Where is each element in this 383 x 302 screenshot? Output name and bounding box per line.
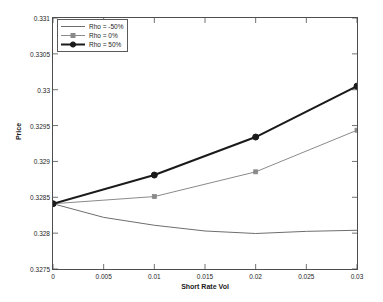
y-axis-tick-label: 0.3305 (30, 50, 50, 57)
y-axis-title: Price (15, 102, 22, 162)
legend-sample-line-icon (60, 31, 86, 40)
y-axis-tick-label: 0.331 (34, 15, 50, 22)
y-axis-tick-label: 0.3285 (30, 194, 50, 201)
chart-figure: 0.32750.3280.32850.3290.32950.330.33050.… (0, 0, 383, 302)
x-axis-tick-label: 0.01 (148, 273, 161, 280)
y-axis-tick-labels: 0.32750.3280.32850.3290.32950.330.33050.… (0, 0, 50, 302)
series-canvas (53, 18, 357, 269)
legend-sample-line-icon (60, 40, 86, 49)
x-axis-title: Short Rate Vol (52, 283, 358, 290)
x-axis-tick-label: 0.03 (351, 273, 364, 280)
x-axis-tick-label: 0.005 (96, 273, 112, 280)
x-axis-tick-label: 0.025 (298, 273, 314, 280)
x-axis-tick-label: 0 (51, 273, 55, 280)
y-axis-tick-label: 0.328 (34, 230, 50, 237)
y-axis-tick-label: 0.33 (37, 86, 50, 93)
legend-item-label: Rho = 0% (89, 31, 118, 40)
x-axis-tick-label: 0.015 (197, 273, 213, 280)
x-axis-tick-label: 0.02 (249, 273, 262, 280)
legend-item-label: Rho = -50% (89, 22, 124, 31)
legend-item[interactable]: Rho = -50% (60, 22, 124, 31)
legend-item-label: Rho = 50% (89, 40, 121, 49)
legend-item[interactable]: Rho = 50% (60, 40, 124, 49)
plot-area (52, 17, 358, 270)
legend-item[interactable]: Rho = 0% (60, 31, 124, 40)
y-axis-tick-label: 0.3295 (30, 122, 50, 129)
legend: Rho = -50% Rho = 0% Rho = 50% (57, 19, 128, 52)
y-axis-tick-label: 0.3275 (30, 266, 50, 273)
legend-sample-line-icon (60, 22, 86, 31)
y-axis-tick-label: 0.329 (34, 158, 50, 165)
